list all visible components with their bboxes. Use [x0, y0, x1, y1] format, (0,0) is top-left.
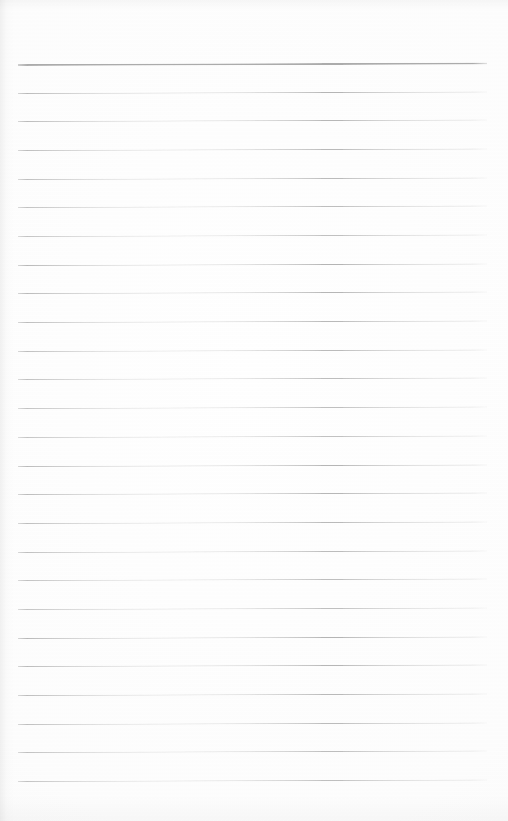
rule-line: [18, 378, 487, 380]
rule-line: [18, 149, 487, 151]
rule-line: [18, 321, 487, 323]
rule-line: [18, 751, 487, 753]
rule-line: [18, 493, 487, 495]
rule-line: [18, 292, 487, 294]
rule-line: [18, 91, 487, 93]
rule-line: [18, 693, 487, 695]
rule-line: [18, 349, 487, 351]
rule-line: [18, 206, 487, 208]
rule-line: [18, 636, 487, 638]
rule-line: [18, 464, 487, 466]
rule-line: [18, 263, 487, 265]
rule-line: [18, 607, 487, 609]
ruled-lines-layer: [0, 0, 508, 821]
rule-line: [18, 120, 487, 122]
rule-line: [18, 579, 487, 581]
rule-line: [18, 780, 487, 782]
notepad-page: [0, 0, 508, 821]
rule-line: [18, 722, 487, 724]
rule-line: [18, 235, 487, 237]
rule-line: [18, 177, 487, 179]
rule-line: [18, 435, 487, 437]
rule-line: [18, 665, 487, 667]
rule-line: [18, 407, 487, 409]
header-rule-line: [18, 63, 487, 66]
rule-line: [18, 550, 487, 552]
rule-line: [18, 521, 487, 523]
